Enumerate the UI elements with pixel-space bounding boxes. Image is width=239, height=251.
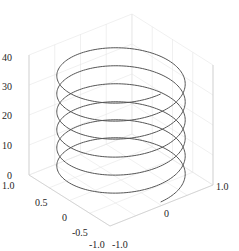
z-tick-label: 10: [2, 140, 12, 151]
z-tick-label: 40: [2, 52, 12, 63]
x-tick-label: 1.0: [216, 181, 229, 192]
y-tick-label: 1.0: [2, 180, 15, 191]
x-axis-ticks: -1.0 0 1.0: [112, 181, 229, 250]
grid-line: [49, 147, 152, 188]
z-tick-label: 30: [2, 81, 12, 92]
y-tick-label: 0: [62, 212, 67, 223]
y-tick-label: -1.0: [89, 239, 105, 250]
z-axis-ticks: 0 10 20 30 40: [2, 52, 12, 181]
y-tick-label: -0.5: [72, 227, 88, 238]
z-tick-label: 20: [2, 110, 12, 121]
y-tick-label: 0.5: [35, 197, 48, 208]
x-tick-label: 0: [164, 208, 169, 219]
helix-curve: [57, 48, 185, 202]
x-tick-label: -1.0: [112, 239, 128, 250]
axis-line: [110, 185, 213, 226]
helix-3d-plot: 0 10 20 30 40 1.0 0.5 0 -0.5 -1.0 -1.0 0…: [0, 0, 239, 251]
grid-line: [70, 160, 173, 201]
